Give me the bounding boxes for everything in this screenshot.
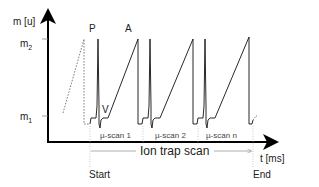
segment-label-2: µ-scan 2 — [155, 131, 186, 140]
valley-label-v: V — [102, 104, 109, 115]
tail-dotted — [253, 116, 258, 120]
end-label: End — [253, 169, 271, 180]
peak-label-p: P — [89, 23, 96, 34]
dotted-initial-ramp — [63, 39, 90, 124]
peak-label-a: A — [125, 23, 132, 34]
start-label: Start — [89, 169, 110, 180]
segment-label-n: µ-scan n — [206, 131, 237, 140]
x-axis-label: t [ms] — [260, 153, 285, 164]
ion-trap-scan-label: Ion trap scan — [140, 144, 209, 158]
waveform — [90, 37, 253, 128]
segment-label-1: µ-scan 1 — [100, 131, 131, 140]
ion-trap-scan-diagram: m [u] t [ms] m2 m1 P A V µ-scan 1 µ-scan… — [0, 0, 319, 187]
y-axis-label: m [u] — [13, 16, 35, 27]
tick-label-m1: m1 — [20, 111, 32, 124]
tick-label-m2: m2 — [20, 38, 32, 51]
